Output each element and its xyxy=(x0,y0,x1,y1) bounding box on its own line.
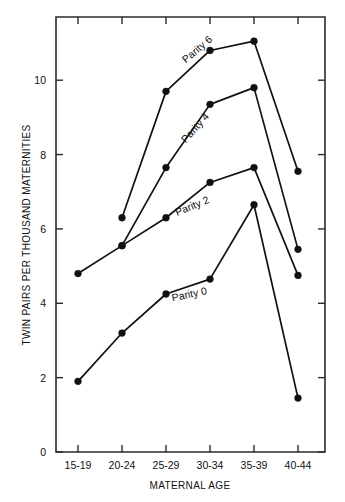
data-point-marker xyxy=(119,214,126,221)
data-point-marker xyxy=(207,276,214,283)
y-tick-label: 4 xyxy=(40,297,46,309)
data-point-marker xyxy=(75,378,82,385)
x-tick-label: 35-39 xyxy=(241,459,268,471)
data-point-marker xyxy=(75,270,82,277)
y-tick-label: 2 xyxy=(40,372,46,384)
data-point-marker xyxy=(163,164,170,171)
data-point-marker xyxy=(295,272,302,279)
chart-figure: 0246810 15-1920-2425-2930-3435-3940-44 P… xyxy=(0,0,345,502)
y-tick-label: 10 xyxy=(34,74,46,86)
x-tick-label: 20-24 xyxy=(109,459,136,471)
x-tick-label: 15-19 xyxy=(65,459,92,471)
data-point-marker xyxy=(295,168,302,175)
y-axis-title: TWIN PAIRS PER THOUSAND MATERNITIES xyxy=(21,124,32,345)
data-point-marker xyxy=(119,330,126,337)
chart-background xyxy=(0,0,345,502)
data-point-marker xyxy=(207,101,214,108)
x-tick-label: 40-44 xyxy=(285,459,312,471)
data-point-marker xyxy=(207,47,214,54)
data-point-marker xyxy=(295,395,302,402)
x-axis-title: MATERNAL AGE xyxy=(150,480,231,491)
data-point-marker xyxy=(251,38,258,45)
data-point-marker xyxy=(251,84,258,91)
y-tick-label: 8 xyxy=(40,149,46,161)
x-tick-label: 30-34 xyxy=(197,459,224,471)
data-point-marker xyxy=(163,214,170,221)
data-point-marker xyxy=(163,88,170,95)
data-point-marker xyxy=(295,246,302,253)
x-tick-label: 25-29 xyxy=(153,459,180,471)
data-point-marker xyxy=(163,291,170,298)
data-point-marker xyxy=(251,164,258,171)
data-point-marker xyxy=(251,201,258,208)
y-tick-label: 0 xyxy=(40,446,46,458)
data-point-marker xyxy=(207,179,214,186)
twin-pairs-line-chart: 0246810 15-1920-2425-2930-3435-3940-44 P… xyxy=(0,0,345,502)
y-tick-label: 6 xyxy=(40,223,46,235)
data-point-marker xyxy=(119,242,126,249)
